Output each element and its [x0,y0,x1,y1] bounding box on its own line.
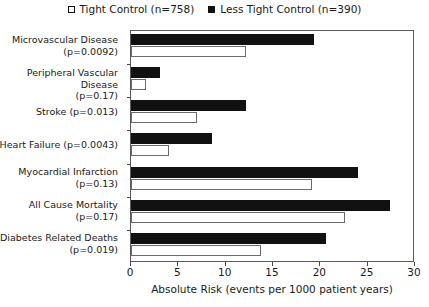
bar-group-microvascular-disease [131,31,413,64]
bar-tight-peripheral-vascular-disease [131,79,146,90]
x-tick-label: 25 [360,266,373,279]
y-label-line-2: (p=0.13) [0,178,118,190]
bar-less-tight-peripheral-vascular-disease [131,67,160,78]
y-label-line-1: All Cause Mortality [0,199,118,211]
y-label-microvascular-disease: Microvascular Disease (p=0.0092) [0,34,122,57]
y-label-line-1: Peripheral Vascular Disease [0,67,118,90]
bar-less-tight-heart-failure [131,133,212,144]
x-tick-label: 10 [218,266,231,279]
legend-entry-tight-control: Tight Control (n=758) [68,3,195,16]
x-tick-label: 0 [127,266,134,279]
chart-figure: Tight Control (n=758) Less Tight Control… [0,0,429,307]
bar-less-tight-all-cause-mortality [131,200,390,211]
y-label-line-1: Heart Failure (p=0.0043) [0,139,118,151]
y-axis-labels: Microvascular Disease (p=0.0092) Periphe… [0,30,126,262]
plot-area [130,30,414,262]
bar-group-peripheral-vascular-disease [131,64,413,97]
y-label-line-2: (p=0.0092) [0,46,118,58]
bar-group-heart-failure [131,130,413,163]
x-axis-title: Absolute Risk (events per 1000 patient y… [130,283,414,296]
open-square-icon [68,6,75,13]
bar-less-tight-diabetes-related-deaths [131,233,326,244]
x-tick-label: 30 [407,266,420,279]
y-label-line-1: Microvascular Disease [0,34,118,46]
x-tick-label: 5 [174,266,181,279]
filled-square-icon [208,6,215,13]
y-label-stroke: Stroke (p=0.013) [0,106,122,118]
y-label-line-2: (p=0.17) [0,211,118,223]
x-tick-label: 20 [313,266,326,279]
legend-label-less-tight-control: Less Tight Control (n=390) [220,3,361,16]
legend-label-tight-control: Tight Control (n=758) [80,3,195,16]
bar-less-tight-microvascular-disease [131,34,314,45]
x-tick-label: 15 [265,266,278,279]
bar-less-tight-stroke [131,100,246,111]
bar-group-stroke [131,97,413,130]
y-label-all-cause-mortality: All Cause Mortality (p=0.17) [0,199,122,222]
bar-group-myocardial-infarction [131,164,413,197]
legend-entry-less-tight-control: Less Tight Control (n=390) [208,3,361,16]
bar-group-all-cause-mortality [131,197,413,230]
bar-tight-microvascular-disease [131,46,246,57]
bar-tight-stroke [131,112,197,123]
y-label-diabetes-related-deaths: Diabetes Related Deaths (p=0.019) [0,232,122,255]
bar-tight-diabetes-related-deaths [131,245,261,256]
y-label-line-1: Stroke (p=0.013) [0,106,118,118]
bar-tight-myocardial-infarction [131,179,312,190]
y-label-line-2: (p=0.019) [0,244,118,256]
y-label-line-1: Myocardial Infarction [0,166,118,178]
x-axis-tick-labels: 051015202530 [0,266,429,280]
y-label-line-2: (p=0.17) [0,90,118,102]
y-label-heart-failure: Heart Failure (p=0.0043) [0,139,122,151]
y-label-myocardial-infarction: Myocardial Infarction (p=0.13) [0,166,122,189]
bar-tight-heart-failure [131,145,169,156]
y-label-peripheral-vascular-disease: Peripheral Vascular Disease (p=0.17) [0,67,122,102]
bar-group-diabetes-related-deaths [131,230,413,263]
chart-legend: Tight Control (n=758) Less Tight Control… [0,3,429,16]
bar-less-tight-myocardial-infarction [131,167,358,178]
bar-tight-all-cause-mortality [131,212,345,223]
y-label-line-1: Diabetes Related Deaths [0,232,118,244]
